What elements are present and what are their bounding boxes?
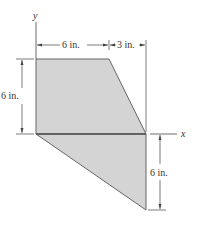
composite-area-diagram: y x 6 in. 3 in. 6 in. 6 in.	[0, 0, 200, 227]
dim-right-label: 6 in.	[150, 167, 168, 178]
lower-region	[36, 134, 146, 210]
arrow-icon	[159, 135, 162, 140]
arrow-icon	[110, 44, 115, 47]
upper-region	[36, 59, 146, 134]
y-axis-label: y	[32, 10, 38, 21]
arrow-icon	[140, 44, 145, 47]
dim-top-right-label: 3 in.	[117, 39, 135, 50]
arrow-icon	[21, 128, 24, 133]
arrow-icon	[37, 44, 42, 47]
dim-top-left-label: 6 in.	[62, 39, 80, 50]
arrow-icon	[103, 44, 108, 47]
arrow-icon	[21, 60, 24, 65]
x-axis-label: x	[180, 128, 186, 139]
dim-left-label: 6 in.	[1, 90, 19, 101]
arrow-icon	[159, 204, 162, 209]
